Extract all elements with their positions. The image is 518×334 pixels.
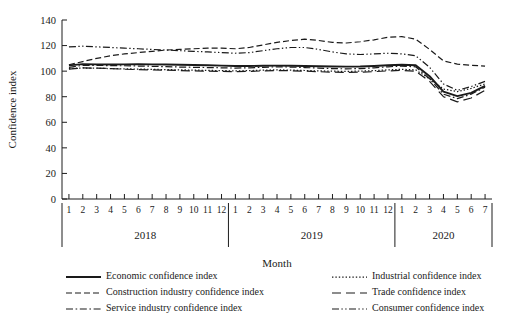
x-axis-month-label: 6	[302, 205, 307, 215]
confidence-index-chart: 020406080100120140Confidence index123456…	[0, 0, 518, 334]
x-axis-month-label: 7	[316, 205, 321, 215]
x-axis-month-label: 5	[455, 205, 460, 215]
legend-label: Economic confidence index	[106, 270, 218, 281]
y-axis-tick-label: 140	[40, 15, 56, 26]
x-axis-month-label: 8	[330, 205, 335, 215]
y-axis-tick-label: 20	[46, 168, 57, 179]
x-axis-month-label: 3	[261, 205, 266, 215]
x-axis-month-label: 5	[288, 205, 293, 215]
y-axis-tick-label: 0	[51, 194, 56, 205]
x-axis-month-label: 2	[413, 205, 418, 215]
x-axis-month-label: 8	[164, 205, 169, 215]
x-axis-month-label: 1	[233, 205, 238, 215]
x-axis-month-label: 12	[217, 205, 227, 215]
x-axis-month-label: 1	[399, 205, 404, 215]
x-axis-month-label: 3	[427, 205, 432, 215]
x-axis-month-label: 9	[178, 205, 183, 215]
legend-item: Consumer confidence index	[332, 302, 484, 313]
x-axis-month-label: 1	[67, 205, 72, 215]
legend-item: Industrial confidence index	[332, 270, 481, 281]
y-axis-title: Confidence index	[6, 70, 18, 148]
legend-item: Economic confidence index	[66, 270, 218, 281]
y-axis-tick-label: 60	[46, 117, 57, 128]
legend-label: Trade confidence index	[372, 286, 466, 297]
chart-canvas: 020406080100120140Confidence index123456…	[0, 0, 518, 334]
x-axis-month-label: 2	[247, 205, 252, 215]
legend-label: Consumer confidence index	[372, 302, 484, 313]
x-axis-month-label: 4	[275, 205, 280, 215]
x-axis-title: Month	[262, 257, 292, 269]
y-axis-tick-label: 40	[46, 143, 57, 154]
x-axis-year-label: 2018	[134, 229, 157, 241]
legend-item: Trade confidence index	[332, 286, 466, 297]
y-axis-tick-label: 80	[46, 92, 57, 103]
x-axis-month-label: 7	[483, 205, 488, 215]
series-line-trade-confidence-index	[69, 68, 485, 102]
legend-item: Construction industry confidence index	[66, 286, 264, 297]
x-axis-month-label: 12	[383, 205, 393, 215]
x-axis-month-label: 6	[136, 205, 141, 215]
x-axis-month-label: 3	[94, 205, 99, 215]
x-axis-month-label: 5	[122, 205, 127, 215]
legend-label: Industrial confidence index	[372, 270, 481, 281]
y-axis-tick-label: 100	[40, 66, 56, 77]
x-axis-month-label: 6	[469, 205, 474, 215]
x-axis-year-label: 2019	[301, 229, 324, 241]
legend-label: Service industry confidence index	[106, 302, 242, 313]
x-axis-month-label: 11	[370, 205, 379, 215]
x-axis-month-label: 10	[355, 205, 365, 215]
x-axis-month-label: 2	[80, 205, 85, 215]
x-axis-month-label: 10	[189, 205, 199, 215]
x-axis-month-label: 7	[150, 205, 155, 215]
x-axis-month-label: 4	[108, 205, 113, 215]
legend-item: Service industry confidence index	[66, 302, 242, 313]
legend-label: Construction industry confidence index	[106, 286, 264, 297]
x-axis-month-label: 4	[441, 205, 446, 215]
x-axis-month-label: 11	[203, 205, 212, 215]
x-axis-year-label: 2020	[432, 229, 455, 241]
x-axis-month-label: 9	[344, 205, 349, 215]
y-axis-tick-label: 120	[40, 40, 56, 51]
